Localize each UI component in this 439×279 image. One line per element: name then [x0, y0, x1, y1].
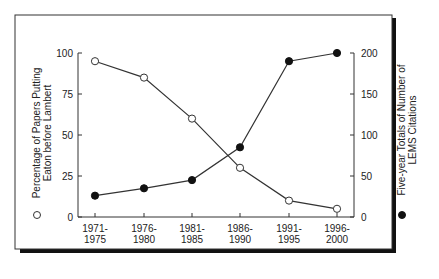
left-axis-title-line-1: Percentage of Papers Putting [31, 68, 42, 199]
x-tick-label: 1995 [278, 234, 301, 245]
filled-circle-marker [285, 58, 292, 65]
x-tick-label: 1971- [82, 223, 108, 234]
x-tick-label: 1976- [131, 223, 157, 234]
x-tick-label: 1996- [324, 223, 350, 234]
x-tick-label: 1980 [133, 234, 156, 245]
left-tick-label: 25 [62, 171, 74, 182]
left-axis-title-line-2: Eaton before Lambert [42, 84, 53, 181]
right-tick-label: 100 [361, 130, 378, 141]
right-axis-title-line-1: Five-year Totals of Number of [396, 64, 407, 195]
filled-circle-legend-icon [399, 212, 406, 219]
open-circle-marker [333, 205, 340, 212]
filled-circle-marker [91, 192, 98, 199]
right-axis-title: Five-year Totals of Number ofLEMS Citati… [396, 64, 418, 218]
filled-circle-marker [333, 49, 340, 56]
frame-shadow-bottom-full [20, 249, 396, 253]
filled-circle-marker [188, 177, 195, 184]
x-tick-label: 1985 [181, 234, 204, 245]
x-tick-label: 1981- [179, 223, 205, 234]
x-tick-label: 1990 [229, 234, 252, 245]
right-tick-label: 150 [361, 89, 378, 100]
open-circle-marker [285, 197, 292, 204]
open-circle-legend-icon [34, 212, 41, 219]
left-tick-label: 100 [56, 48, 73, 59]
right-tick-label: 200 [361, 48, 378, 59]
x-tick-label: 2000 [326, 234, 349, 245]
x-tick-label: 1991- [276, 223, 302, 234]
right-axis-title-line-2: LEMS Citations [407, 96, 418, 165]
left-tick-label: 0 [67, 212, 73, 223]
open-circle-marker [236, 164, 243, 171]
left-tick-label: 75 [62, 89, 74, 100]
right-tick-label: 50 [361, 171, 373, 182]
left-tick-label: 50 [62, 130, 74, 141]
right-tick-label: 0 [361, 212, 367, 223]
filled-circle-marker [236, 144, 243, 151]
x-tick-label: 1986- [227, 223, 253, 234]
x-tick-label: 1975 [84, 234, 107, 245]
open-circle-marker [140, 74, 147, 81]
filled-circle-marker [140, 185, 147, 192]
open-circle-marker [188, 115, 195, 122]
open-circle-marker [91, 58, 98, 65]
dual-axis-line-chart: 0255075100 050100150200 1971-19751976-19… [0, 0, 439, 279]
